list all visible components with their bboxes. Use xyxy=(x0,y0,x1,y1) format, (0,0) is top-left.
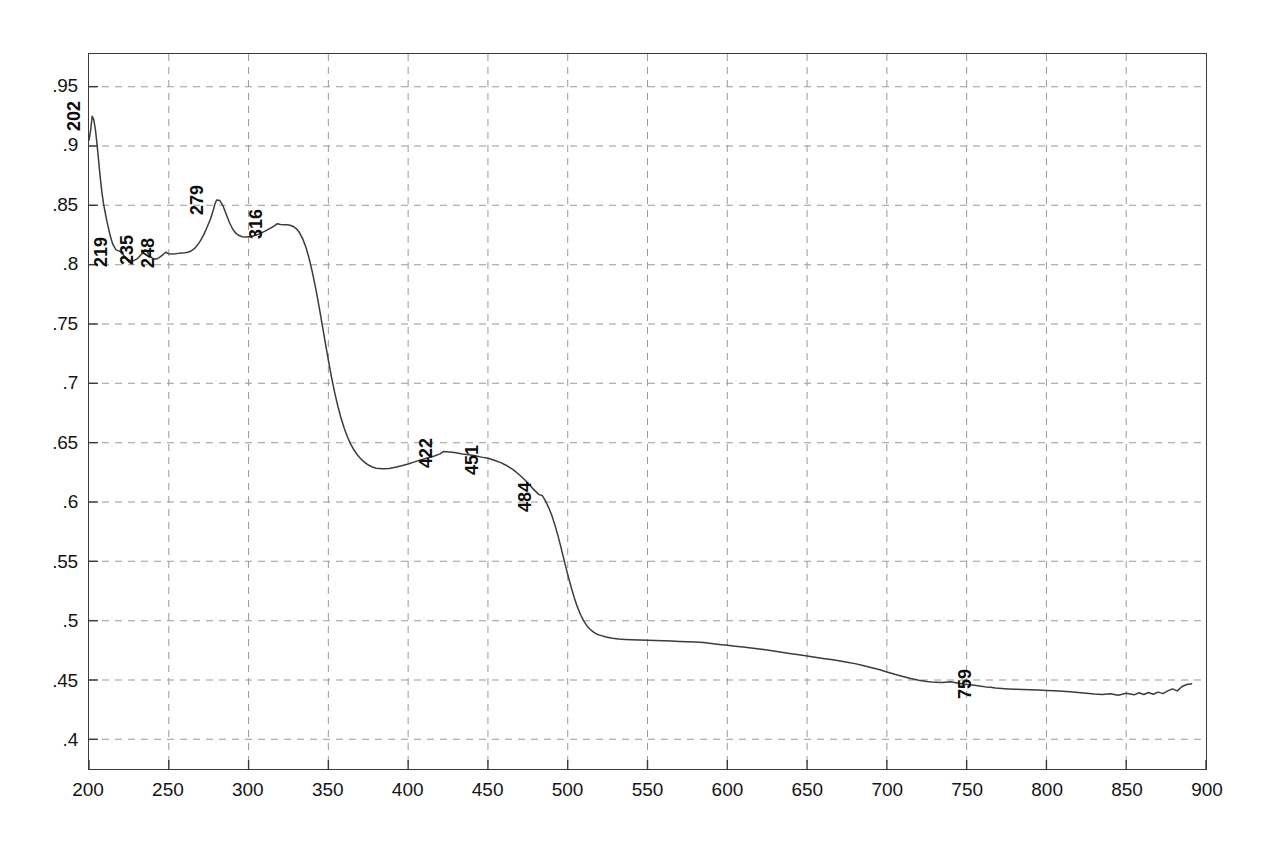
x-tick-label: 550 xyxy=(613,779,683,801)
y-tick-label: .6 xyxy=(16,491,78,513)
y-tick-label: .95 xyxy=(16,75,78,97)
peak-label-422: 422 xyxy=(416,438,437,468)
x-tick-label: 400 xyxy=(373,779,443,801)
x-tick-label: 450 xyxy=(453,779,523,801)
chart-root: 202219235248279316422451484759 .4.45.5.5… xyxy=(0,0,1273,844)
peak-label-235: 235 xyxy=(117,235,138,265)
x-tick-label: 350 xyxy=(293,779,363,801)
peak-label-451: 451 xyxy=(462,445,483,475)
x-tick-label: 300 xyxy=(213,779,283,801)
x-tick-label: 600 xyxy=(692,779,762,801)
peak-label-484: 484 xyxy=(515,482,536,512)
y-tick-label: .4 xyxy=(16,729,78,751)
plot-frame: 202219235248279316422451484759 xyxy=(88,53,1207,770)
peak-label-219: 219 xyxy=(91,237,112,267)
y-tick-label: .65 xyxy=(16,432,78,454)
peak-label-316: 316 xyxy=(246,209,267,239)
y-tick-label: .9 xyxy=(16,134,78,156)
x-tick-label: 250 xyxy=(133,779,203,801)
x-tick-label: 750 xyxy=(932,779,1002,801)
y-tick-label: .7 xyxy=(16,372,78,394)
x-tick-label: 900 xyxy=(1172,779,1242,801)
peak-annotation-layer: 202219235248279316422451484759 xyxy=(89,54,1206,769)
peak-label-248: 248 xyxy=(138,238,159,268)
y-tick-label: .8 xyxy=(16,253,78,275)
x-tick-label: 800 xyxy=(1012,779,1082,801)
y-tick-label: .85 xyxy=(16,194,78,216)
x-tick-label: 200 xyxy=(53,779,123,801)
y-tick-label: .45 xyxy=(16,670,78,692)
x-tick-label: 850 xyxy=(1092,779,1162,801)
x-tick-label: 500 xyxy=(533,779,603,801)
y-tick-label: .55 xyxy=(16,551,78,573)
x-tick-label: 650 xyxy=(772,779,842,801)
y-tick-label: .5 xyxy=(16,610,78,632)
x-tick-label: 700 xyxy=(852,779,922,801)
peak-label-202: 202 xyxy=(64,101,85,131)
y-tick-label: .75 xyxy=(16,313,78,335)
peak-label-279: 279 xyxy=(187,185,208,215)
peak-label-759: 759 xyxy=(955,668,976,698)
